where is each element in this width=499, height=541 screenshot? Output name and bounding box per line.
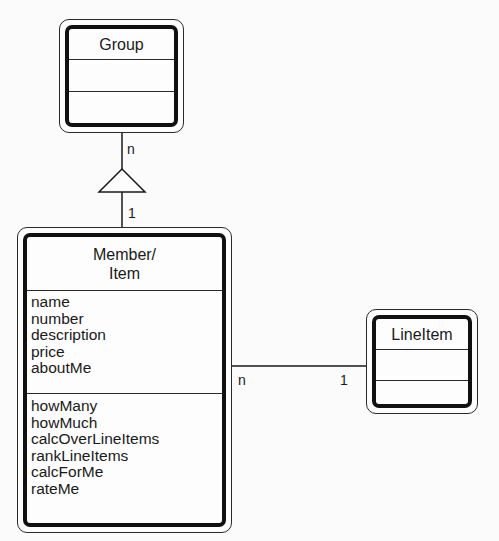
lineitem-end-multiplicity: 1 bbox=[340, 373, 348, 387]
member-end-multiplicity-right: n bbox=[238, 373, 246, 387]
member-item-attributes-section: name number description price aboutMe bbox=[27, 290, 222, 377]
group-end-multiplicity: n bbox=[127, 142, 135, 156]
group-class-name: Group bbox=[69, 35, 174, 54]
group-class-box[interactable]: Group bbox=[59, 19, 184, 133]
attribute-item: name bbox=[31, 294, 222, 311]
lineitem-class-inner: LineItem bbox=[372, 315, 472, 408]
lineitem-class-name: LineItem bbox=[376, 325, 468, 344]
member-item-name-line1: Member/ bbox=[27, 245, 222, 264]
group-operations-section bbox=[69, 91, 174, 123]
member-item-class-name: Member/ Item bbox=[27, 245, 222, 283]
attribute-item: description bbox=[31, 327, 222, 344]
lineitem-attributes-section bbox=[376, 349, 468, 380]
operation-item: calcForMe bbox=[31, 464, 222, 481]
lineitem-operations-section bbox=[376, 380, 468, 404]
member-item-name-line2: Item bbox=[27, 264, 222, 283]
member-item-class-inner: Member/ Item name number description pri… bbox=[23, 233, 226, 527]
operation-item: howMuch bbox=[31, 415, 222, 432]
operation-item: calcOverLineItems bbox=[31, 431, 222, 448]
operation-item: rateMe bbox=[31, 481, 222, 498]
operation-item: rankLineItems bbox=[31, 448, 222, 465]
operation-item: howMany bbox=[31, 398, 222, 415]
lineitem-class-box[interactable]: LineItem bbox=[366, 309, 478, 414]
member-item-operations-section: howMany howMuch calcOverLineItems rankLi… bbox=[27, 393, 222, 498]
attribute-item: aboutMe bbox=[31, 360, 222, 377]
group-class-inner: Group bbox=[65, 25, 178, 127]
attribute-item: price bbox=[31, 344, 222, 361]
member-end-multiplicity-top: 1 bbox=[128, 206, 136, 220]
group-attributes-section bbox=[69, 59, 174, 91]
member-item-class-box[interactable]: Member/ Item name number description pri… bbox=[17, 227, 232, 533]
inheritance-triangle-icon bbox=[99, 169, 145, 192]
attribute-item: number bbox=[31, 311, 222, 328]
